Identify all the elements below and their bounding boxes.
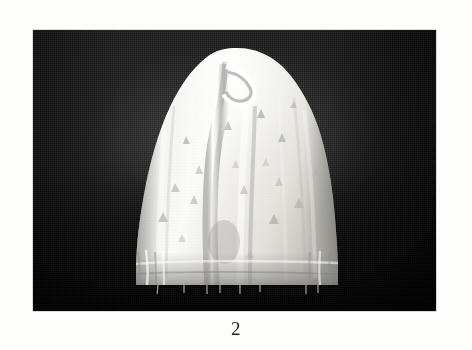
figure-plate-image	[33, 30, 436, 311]
fabric-cap-illustration	[128, 46, 346, 294]
fabric-cap-subject	[128, 46, 346, 294]
cap-hem-shading	[128, 252, 346, 286]
figure-caption: 2	[0, 316, 472, 342]
cap-hem-pins	[157, 285, 318, 294]
document-page: 2	[0, 0, 472, 350]
cap-body	[128, 46, 346, 294]
